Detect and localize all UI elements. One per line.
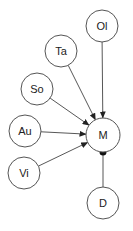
node-m: M bbox=[86, 118, 120, 152]
node-label: Vi bbox=[19, 167, 29, 179]
diagram-canvas: OlTaSoAuViMD bbox=[0, 0, 133, 231]
node-vi: Vi bbox=[8, 157, 40, 189]
node-ol: Ol bbox=[86, 10, 118, 42]
node-label: D bbox=[99, 197, 107, 209]
edge-ol-to-m bbox=[102, 42, 103, 118]
edge-ta-to-m bbox=[68, 65, 95, 120]
node-so: So bbox=[21, 73, 53, 105]
node-d: D bbox=[87, 187, 119, 219]
node-label: Ta bbox=[55, 45, 68, 57]
node-label: Ol bbox=[97, 20, 108, 32]
node-label: Au bbox=[18, 125, 31, 137]
node-au: Au bbox=[9, 115, 41, 147]
edge-au-to-m bbox=[41, 132, 86, 134]
node-label: M bbox=[98, 129, 107, 141]
node-ta: Ta bbox=[45, 35, 77, 67]
edge-so-to-m bbox=[50, 98, 89, 125]
node-label: So bbox=[30, 83, 43, 95]
edge-vi-to-m bbox=[38, 142, 87, 166]
